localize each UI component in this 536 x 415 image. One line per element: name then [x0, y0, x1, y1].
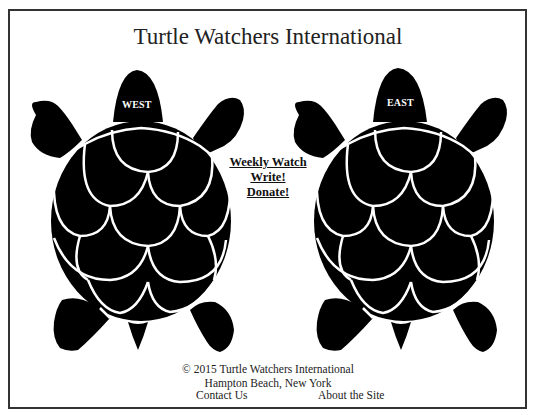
turtle-west-label: WEST [122, 99, 152, 110]
page-title: Turtle Watchers International [0, 24, 536, 50]
location-text: Hampton Beach, New York [0, 377, 536, 391]
copyright-text: © 2015 Turtle Watchers International [0, 363, 536, 377]
contact-us-link-wrap: Contact Us [196, 389, 247, 401]
footer: © 2015 Turtle Watchers International Ham… [0, 363, 536, 390]
turtle-east-label: EAST [387, 97, 414, 108]
contact-us-link[interactable]: Contact Us [196, 389, 247, 401]
center-nav: Weekly Watch Write! Donate! [222, 155, 314, 200]
write-link[interactable]: Write! [222, 170, 314, 185]
weekly-watch-link[interactable]: Weekly Watch [222, 155, 314, 170]
about-site-link[interactable]: About the Site [318, 389, 384, 401]
donate-link[interactable]: Donate! [222, 185, 314, 200]
turtle-west-map-link[interactable]: WEST [0, 60, 260, 360]
turtle-east-map-link[interactable]: EAST [263, 60, 523, 360]
about-site-link-wrap: About the Site [318, 389, 384, 401]
